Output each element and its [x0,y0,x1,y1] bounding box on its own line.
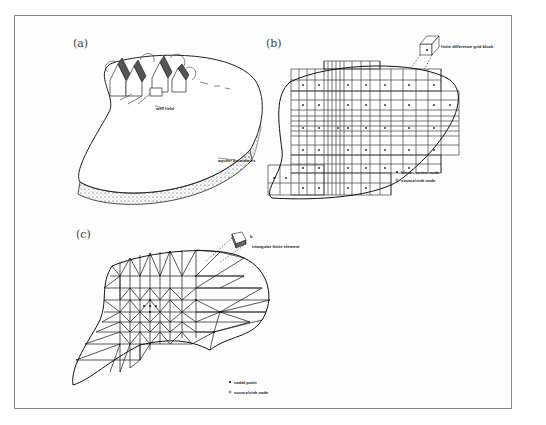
figure-drawing: well field aquifer boundaries [0,0,546,425]
panel-b-grid: finite difference grid block block - cen… [268,36,494,199]
open-node-icon [396,179,398,181]
aquifer-boundaries-label: aquifer boundaries [218,158,256,163]
triangular-element-label: triangular finite element [252,244,300,249]
panel-a-aquifer: well field aquifer boundaries [78,53,262,204]
legend-block-center-node: block - center node [401,170,440,175]
nodal-point-icon [229,381,231,383]
open-node-icon-c [229,391,231,393]
legend-source-sink-node-b: source/sink node [401,178,436,183]
well-field-label: well field [155,106,174,111]
b-dimension-label: b [250,234,253,239]
grid-block-label: finite difference grid block [441,44,494,49]
legend-nodal-point: nodal point [234,380,257,385]
panel-c-mesh: b triangular finite element nodal point … [73,232,300,395]
filled-node-icon [396,171,398,173]
legend-source-sink-node-c: source/sink node [234,390,269,395]
